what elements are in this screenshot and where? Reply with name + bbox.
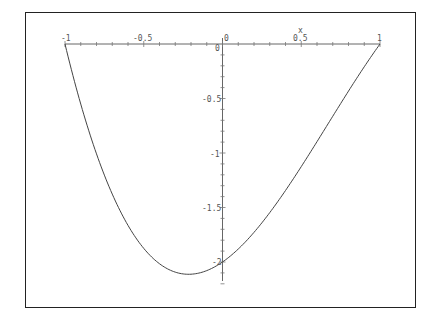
x-tick-label-neg1: -1 xyxy=(61,34,71,43)
y-tick-label-neg2: -2 xyxy=(212,258,222,267)
x-tick-label-0: 0 xyxy=(224,34,229,43)
x-tick-label-0.5: 0.5 xyxy=(293,34,308,43)
axes xyxy=(65,38,380,281)
y-tick-label-neg1: -1 xyxy=(210,150,220,159)
x-tick-label-neg0.5: -0.5 xyxy=(133,34,152,43)
x-axis-label: x xyxy=(298,26,303,35)
y-tick-label-neg1.5: -1.5 xyxy=(202,204,221,213)
y-tick-label-neg0.5: -0.5 xyxy=(202,95,221,104)
x-tick-label-1: 1 xyxy=(377,34,382,43)
plot-canvas: -1 -0.5 0 0 0.5 x 1 -0.5 -1 -1.5 -2 xyxy=(0,0,441,325)
origin-label: 0 xyxy=(215,44,220,53)
